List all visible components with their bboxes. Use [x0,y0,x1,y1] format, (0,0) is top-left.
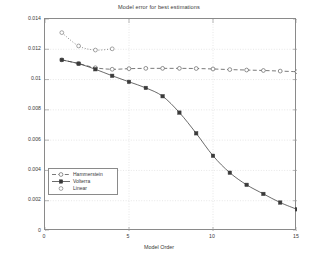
x-axis-label: Model Order [0,244,318,250]
x-tick-label: 15 [286,233,306,239]
data-point-marker [161,95,164,98]
y-tick-label: 0.012 [28,45,41,51]
series-linear [60,31,114,52]
data-point-marker [144,86,147,89]
data-point-marker [144,66,148,70]
y-tick-label: 0.01 [31,75,41,81]
data-point-marker [178,111,181,114]
data-point-marker [278,69,282,73]
plot-area [44,18,296,230]
data-point-marker [77,44,81,48]
data-point-marker [295,208,297,211]
y-tick-label: 0.014 [28,15,41,21]
y-tick-label: 0.006 [28,136,41,142]
chart-title: Model error for best estimations [0,4,318,10]
data-point-marker [262,69,266,73]
x-tick-label: 5 [118,233,138,239]
y-tick-label: 0 [38,227,41,233]
data-point-marker [194,67,198,71]
data-point-marker [127,80,130,83]
y-tick-label: 0.002 [28,196,41,202]
data-point-marker [262,192,265,195]
legend-label: Volterra [73,178,90,185]
legend-box: HammersteinVolterraLinear [48,168,118,195]
legend-label: Hammerstein [73,171,103,178]
legend-marker-icon [51,171,71,178]
data-point-marker [60,31,64,35]
data-point-marker [178,66,182,70]
figure-canvas: Model error for best estimations Error M… [0,0,318,262]
legend-item-hammerstein[interactable]: Hammerstein [51,171,114,178]
data-point-marker [161,66,165,70]
data-point-marker [77,62,80,65]
legend-item-linear[interactable]: Linear [51,185,114,192]
data-point-marker [295,70,297,74]
data-point-marker [245,183,248,186]
legend-item-volterra[interactable]: Volterra [51,178,114,185]
data-point-marker [228,68,232,72]
data-point-marker [111,74,114,77]
legend-marker-icon [51,178,71,185]
series-line [62,33,112,51]
data-point-marker [110,67,114,71]
data-point-marker [94,68,97,71]
series-hammerstein [60,58,297,74]
data-point-marker [195,132,198,135]
data-point-marker [127,67,131,71]
data-point-marker [245,68,249,72]
data-point-marker [211,154,214,157]
y-tick-label: 0.008 [28,105,41,111]
legend-label: Linear [73,185,87,192]
data-point-marker [60,58,63,61]
data-point-marker [94,48,98,52]
data-point-marker [110,47,114,51]
data-point-marker [279,201,282,204]
data-point-marker [211,67,215,71]
plot-svg [45,19,297,231]
x-tick-label: 0 [34,233,54,239]
y-tick-label: 0.004 [28,166,41,172]
x-tick-label: 10 [202,233,222,239]
data-point-marker [228,171,231,174]
legend-marker-icon [51,185,71,192]
